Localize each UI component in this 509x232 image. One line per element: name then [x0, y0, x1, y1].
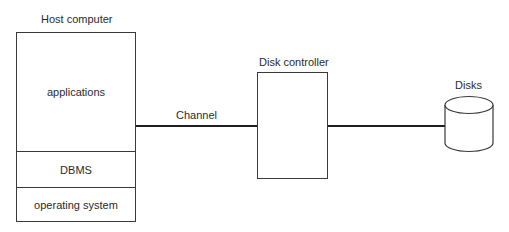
dbms-label: DBMS — [60, 164, 92, 176]
dbms-layer: DBMS — [17, 152, 135, 188]
host-computer-box: applications DBMS operating system — [16, 32, 136, 222]
channel-label: Channel — [176, 109, 217, 121]
disk-controller-title: Disk controller — [259, 56, 329, 68]
host-computer-title: Host computer — [41, 13, 113, 25]
applications-layer: applications — [17, 33, 135, 152]
disks-title: Disks — [455, 79, 482, 91]
operating-system-layer: operating system — [17, 188, 135, 221]
channel-connector — [136, 125, 257, 127]
cylinder-icon — [443, 94, 495, 156]
applications-label: applications — [47, 86, 105, 98]
disk-connector — [328, 125, 445, 127]
operating-system-label: operating system — [34, 199, 118, 211]
disk-controller-box — [257, 72, 328, 179]
